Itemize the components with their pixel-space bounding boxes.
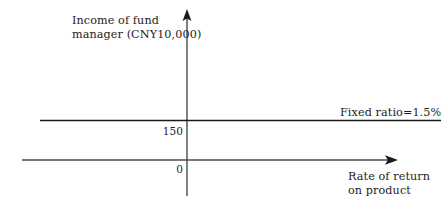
x-axis-label: Rate of return on product: [348, 170, 430, 198]
x-axis-label-line-2: on product: [348, 184, 430, 198]
y-axis-label-line-2: manager (CNY10,000): [72, 28, 201, 42]
fixed-ratio-label: Fixed ratio=1.5%: [340, 106, 441, 120]
x-axis-label-line-1: Rate of return: [348, 170, 430, 184]
fund-manager-income-chart: Income of fund manager (CNY10,000) Fixed…: [0, 0, 446, 208]
y-axis-label-line-1: Income of fund: [72, 14, 201, 28]
x-axis: [22, 155, 398, 165]
y-axis-label: Income of fund manager (CNY10,000): [72, 14, 201, 42]
origin-tick-0: 0: [140, 162, 183, 176]
y-axis-tick-150: 150: [140, 124, 183, 138]
